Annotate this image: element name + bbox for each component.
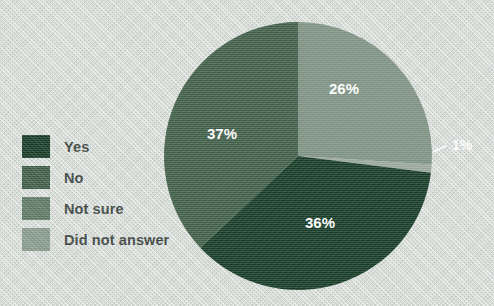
legend-item-label: No [64, 170, 84, 186]
legend-swatch-icon [22, 135, 50, 158]
pie-slice-value-label: 37% [207, 125, 237, 142]
legend-item[interactable]: Did not answer [22, 224, 169, 255]
pie-texture-overlay [164, 22, 432, 290]
legend-item[interactable]: Yes [22, 131, 169, 162]
legend-swatch-icon [22, 228, 50, 251]
pie-slice-texture [298, 22, 432, 164]
pie-slice-value-label: 1% [452, 137, 473, 153]
slice-callout-leader-line [433, 146, 446, 152]
legend-item-label: Yes [64, 139, 89, 155]
legend-item[interactable]: Not sure [22, 193, 169, 224]
pie-slice-value-label: 36% [305, 214, 335, 231]
legend-swatch-icon [22, 197, 50, 220]
pie-chart-figure: 26%1%36%37% YesNoNot sureDid not answer [0, 0, 494, 306]
chart-legend: YesNoNot sureDid not answer [22, 131, 169, 255]
pie-slice-value-label: 26% [329, 80, 359, 97]
legend-item[interactable]: No [22, 162, 169, 193]
legend-swatch-icon [22, 166, 50, 189]
legend-item-label: Not sure [64, 201, 124, 217]
legend-item-label: Did not answer [64, 232, 169, 248]
